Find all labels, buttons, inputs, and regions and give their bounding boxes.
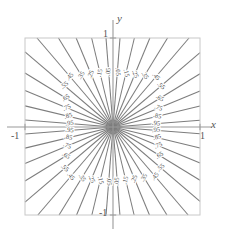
svg-text:.35: .35	[78, 172, 88, 183]
svg-text:.75: .75	[153, 140, 163, 150]
svg-text:.25: .25	[129, 174, 139, 184]
svg-text:.65: .65	[155, 92, 166, 102]
svg-text:.85: .85	[152, 132, 162, 141]
svg-text:.05: .05	[115, 67, 123, 76]
svg-text:.65: .65	[61, 150, 72, 160]
svg-text:.15: .15	[97, 175, 106, 185]
y-axis-label: y	[117, 12, 122, 24]
x-axis-label: x	[211, 118, 216, 130]
svg-text:.25: .25	[88, 174, 98, 184]
svg-text:.15: .15	[123, 68, 132, 78]
plot-canvas: .05.05.15.15.25.25.35.35.45.45.55.55.65.…	[0, 0, 232, 239]
svg-text:.05: .05	[104, 67, 112, 76]
svg-text:.25: .25	[131, 69, 141, 79]
svg-text:.65: .65	[154, 150, 165, 160]
svg-text:.35: .35	[138, 172, 148, 183]
svg-text:.15: .15	[95, 68, 104, 78]
svg-text:.35: .35	[140, 70, 150, 81]
tick-label-x-positive: 1	[200, 130, 205, 141]
tick-label-x-negative: -1	[11, 130, 19, 141]
svg-text:.05: .05	[112, 177, 120, 186]
tick-label-y-negative: -1	[99, 207, 107, 218]
svg-text:.25: .25	[85, 69, 95, 79]
svg-text:.95: .95	[152, 126, 161, 134]
svg-text:.35: .35	[76, 70, 86, 81]
tick-label-y-positive: 1	[103, 28, 108, 39]
svg-text:.75: .75	[62, 140, 72, 150]
svg-text:.65: .65	[60, 92, 71, 102]
svg-text:.15: .15	[120, 175, 129, 185]
contour-plot-figure: .05.05.15.15.25.25.35.35.45.45.55.55.65.…	[0, 0, 232, 239]
svg-text:.95: .95	[65, 126, 74, 134]
